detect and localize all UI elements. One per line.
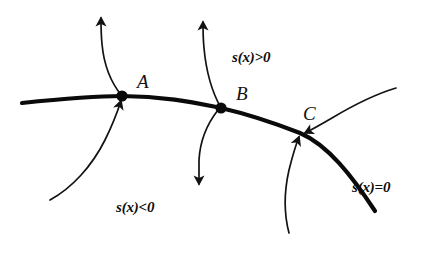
region-label-group: s(x)>0 s(x)<0 s(x)=0 <box>115 49 391 216</box>
region-label-s-positive: s(x)>0 <box>231 49 271 66</box>
manifold-curve-s-equals-zero <box>22 96 375 211</box>
arrow-into-c-from-below <box>285 137 299 233</box>
phase-flow-diagram: A B C s(x)>0 s(x)<0 s(x)=0 <box>0 0 434 253</box>
arrow-into-c-from-right <box>305 88 396 133</box>
point-label-c: C <box>303 103 316 124</box>
point-dot-a <box>116 90 127 101</box>
point-dot-group <box>116 90 226 113</box>
region-label-s-zero: s(x)=0 <box>351 179 391 196</box>
point-label-b: B <box>236 83 248 104</box>
diagram-canvas: A B C s(x)>0 s(x)<0 s(x)=0 <box>0 0 434 253</box>
point-dot-b <box>215 102 226 113</box>
arrow-up-from-a <box>101 18 122 96</box>
region-label-s-negative: s(x)<0 <box>115 199 155 216</box>
flow-arrow-group <box>50 18 396 233</box>
arrow-up-from-b <box>203 22 221 108</box>
point-label-a: A <box>135 71 149 92</box>
arrow-into-a-from-below <box>50 101 121 200</box>
arrow-down-from-b <box>199 110 218 184</box>
